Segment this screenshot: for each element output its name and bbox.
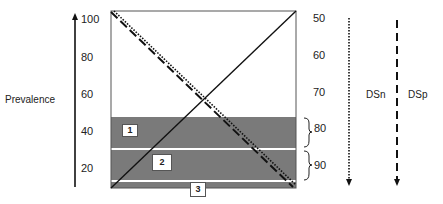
prevalence-arrow-head <box>72 13 78 20</box>
dsp-label: DSp <box>408 89 427 100</box>
region-band-1 <box>111 117 296 148</box>
prevalence-tick-100: 100 <box>81 13 99 25</box>
prevalence-tick-40: 40 <box>81 125 93 137</box>
brace-90 <box>304 151 312 180</box>
prevalence-tick-20: 20 <box>81 162 93 174</box>
region-label-3: 3 <box>190 182 206 197</box>
brace-80 <box>304 118 312 147</box>
dsn-label: DSn <box>366 89 385 100</box>
dsn-arrow-head <box>346 179 352 186</box>
diagram-graphics <box>0 0 443 204</box>
region-band-2 <box>111 150 296 180</box>
prevalence-tick-80: 80 <box>81 51 93 63</box>
region-label-1: 1 <box>122 124 138 137</box>
prevalence-tick-60: 60 <box>81 88 93 100</box>
prevalence-axis-title: Prevalence <box>5 94 55 105</box>
right-tick-50: 50 <box>313 12 325 24</box>
dsp-arrow-head <box>394 179 400 186</box>
right-tick-60: 60 <box>313 49 325 61</box>
right-tick-80: 80 <box>314 122 326 134</box>
right-tick-90: 90 <box>314 159 326 171</box>
right-tick-70: 70 <box>313 86 325 98</box>
region-label-2: 2 <box>152 154 172 171</box>
